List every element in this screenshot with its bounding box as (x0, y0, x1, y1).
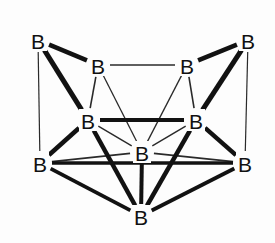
vertex-label-b-upper-left: B (91, 55, 105, 78)
bond-b-top-right-to-b-upper-right (198, 45, 237, 61)
bond-b-top-left-to-b-upper-left (49, 45, 87, 61)
bond-b-center-to-b-bottom (141, 164, 142, 204)
vertex-label-b-upper-right: B (180, 55, 194, 78)
vertex-label-b-top-left: B (31, 30, 45, 53)
borane-cluster-figure: BBBBBBBBBB (0, 0, 275, 243)
vertex-label-b-center: B (135, 142, 149, 165)
bonds-layer (38, 45, 248, 211)
bond-b-top-left-to-b-mid-left (44, 50, 81, 110)
bond-b-lower-left-to-b-center (52, 153, 130, 161)
vertex-label-b-top-right: B (241, 30, 255, 53)
vertex-label-b-lower-right: B (238, 153, 252, 176)
bond-b-top-right-to-b-mid-right (203, 50, 242, 110)
vertex-label-b-mid-left: B (81, 110, 95, 133)
bond-b-upper-left-to-b-mid-left (90, 77, 96, 108)
bond-b-top-left-to-b-lower-left (38, 52, 40, 151)
cluster-diagram-svg: BBBBBBBBBB (0, 0, 275, 243)
bond-b-upper-right-to-b-mid-right (189, 77, 194, 108)
bond-b-mid-left-to-b-center (98, 126, 131, 146)
bond-b-top-right-to-b-lower-right (245, 52, 247, 151)
bond-b-mid-left-to-b-lower-left (49, 128, 79, 155)
vertex-label-b-lower-left: B (33, 153, 47, 176)
vertex-label-b-mid-right: B (189, 110, 203, 133)
vertex-label-b-bottom: B (134, 206, 148, 229)
bond-b-lower-right-to-b-center (154, 153, 233, 161)
bond-b-mid-right-to-b-lower-right (205, 128, 236, 155)
